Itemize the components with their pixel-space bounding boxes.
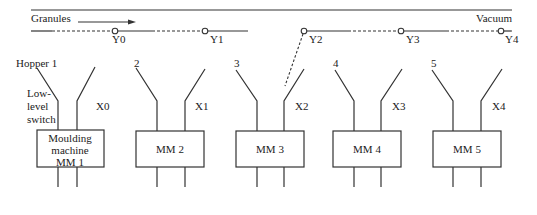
hopper-left-wall bbox=[37, 68, 58, 187]
valve-icon bbox=[202, 28, 208, 34]
machine-label: MM 4 bbox=[353, 143, 381, 155]
hopper-label: 4 bbox=[333, 57, 339, 69]
vacuum-label: Vacuum bbox=[476, 12, 512, 24]
machine-mm5 bbox=[432, 69, 502, 187]
low-level-switch-label: Low- bbox=[27, 87, 51, 99]
valve-label: Y2 bbox=[309, 33, 322, 45]
valve-label: Y3 bbox=[406, 33, 420, 45]
flow-arrow-icon bbox=[78, 20, 136, 25]
machine-mm2 bbox=[136, 68, 205, 187]
machine-mm1 bbox=[37, 67, 104, 187]
valve-icon bbox=[301, 28, 307, 34]
switch-label: X4 bbox=[492, 100, 506, 112]
machine-label: MM 1 bbox=[56, 156, 84, 168]
granule-feed-diagram: Granules Vacuum Y0 Y1 Y2 Y3 Y4 bbox=[0, 0, 537, 215]
feed-pipe-y2-hopper3 bbox=[285, 34, 303, 86]
machine-label: machine bbox=[51, 144, 88, 156]
machine-label: Moulding bbox=[48, 132, 92, 144]
valve-label: Y0 bbox=[112, 33, 126, 45]
machine-mm3 bbox=[236, 69, 304, 187]
granules-label: Granules bbox=[31, 12, 71, 24]
machine-label: MM 2 bbox=[156, 143, 184, 155]
switch-label: X0 bbox=[96, 100, 110, 112]
valve-icon bbox=[398, 28, 404, 34]
switch-label: X1 bbox=[195, 100, 208, 112]
switch-label: X2 bbox=[295, 100, 308, 112]
machine-label: MM 3 bbox=[256, 143, 284, 155]
valve-icon bbox=[498, 28, 504, 34]
machine-mm4 bbox=[333, 69, 402, 187]
hopper-label: Hopper 1 bbox=[16, 57, 57, 69]
hopper-label: 5 bbox=[431, 57, 437, 69]
valve-label: Y1 bbox=[210, 33, 223, 45]
hopper-right-wall bbox=[77, 67, 95, 187]
valve-label: Y4 bbox=[505, 33, 519, 45]
hopper-label: 2 bbox=[134, 57, 140, 69]
hopper-label: 3 bbox=[234, 57, 240, 69]
low-level-switch-label: switch bbox=[27, 113, 56, 125]
switch-label: X3 bbox=[392, 100, 406, 112]
machine-label: MM 5 bbox=[453, 143, 481, 155]
low-level-switch-label: level bbox=[27, 100, 48, 112]
